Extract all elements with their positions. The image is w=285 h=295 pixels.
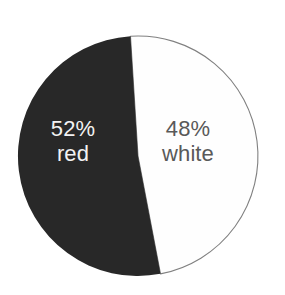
pie-label-red-name: red (23, 142, 123, 167)
pie-label-white-percent: 48% (138, 117, 238, 142)
pie-label-white-name: white (138, 142, 238, 167)
pie-chart-figure: 52% red 48% white (0, 0, 285, 295)
pie-label-red-percent: 52% (23, 117, 123, 142)
pie-label-red: 52% red (23, 117, 123, 166)
pie-label-white: 48% white (138, 117, 238, 166)
